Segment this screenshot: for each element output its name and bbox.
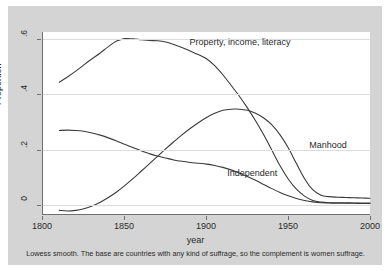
y-tick-mark-1 (37, 150, 41, 151)
x-tick-label-4: 2000 (350, 221, 390, 231)
x-tick-mark-2 (206, 216, 207, 220)
series-line-0 (59, 38, 370, 203)
series-curves (43, 32, 370, 214)
x-tick-label-1: 1850 (104, 221, 144, 231)
series-label-0: Property, income, literacy (190, 37, 291, 47)
chart-footnote: Lowess smooth. The base are countries wi… (0, 249, 391, 258)
plot-wrapper: Proportion 0.2.4.618001850190019502000 P… (0, 0, 391, 271)
plot-area (42, 32, 370, 215)
x-tick-mark-1 (124, 216, 125, 220)
series-line-1 (59, 109, 370, 211)
gridline-y-0 (43, 205, 370, 206)
x-tick-mark-0 (42, 216, 43, 220)
gridline-y-2 (43, 94, 370, 95)
y-tick-label-3: .6 (19, 30, 29, 46)
series-label-2: Independent (227, 168, 277, 178)
y-tick-mark-3 (37, 39, 41, 40)
x-axis-title: year (0, 235, 391, 245)
y-tick-mark-2 (37, 94, 41, 95)
y-tick-mark-0 (37, 205, 41, 206)
x-tick-mark-3 (288, 216, 289, 220)
x-tick-label-3: 1950 (268, 221, 308, 231)
y-tick-label-1: .2 (19, 141, 29, 157)
x-tick-mark-4 (370, 216, 371, 220)
y-axis-title: Proportion (0, 63, 3, 105)
y-tick-label-2: .4 (19, 85, 29, 101)
chart-figure: Proportion 0.2.4.618001850190019502000 P… (0, 0, 391, 271)
x-tick-label-0: 1800 (22, 221, 62, 231)
x-tick-label-2: 1900 (186, 221, 226, 231)
series-label-1: Manhood (309, 140, 347, 150)
y-tick-label-0: 0 (19, 196, 29, 212)
gridline-y-1 (43, 150, 370, 151)
